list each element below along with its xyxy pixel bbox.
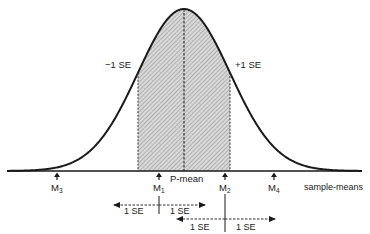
axis-label-sample-means: sample-means xyxy=(304,182,364,192)
marker-m2: M2 xyxy=(219,173,231,195)
interval-m1-left-label: 1 SE xyxy=(124,206,144,216)
plus-1se-label: +1 SE xyxy=(235,59,261,70)
svg-text:M1: M1 xyxy=(153,182,165,194)
minus-1se-label: −1 SE xyxy=(105,59,131,70)
sampling-distribution-diagram: −1 SE +1 SE P-mean sample-means M3 M1 M2… xyxy=(0,0,370,234)
marker-m1: M1 xyxy=(153,173,165,195)
svg-text:M4: M4 xyxy=(268,182,280,194)
svg-text:M2: M2 xyxy=(219,182,231,194)
marker-m3: M3 xyxy=(51,173,63,195)
interval-m1-right-label: 1 SE xyxy=(170,206,190,216)
p-mean-label: P-mean xyxy=(170,173,203,184)
svg-text:M3: M3 xyxy=(51,182,63,194)
interval-m2-left-label: 1 SE xyxy=(190,222,210,232)
interval-m1: 1 SE 1 SE xyxy=(114,196,205,216)
interval-m2: 1 SE 1 SE xyxy=(177,194,275,232)
interval-m2-right-label: 1 SE xyxy=(236,222,256,232)
marker-m4: M4 xyxy=(268,173,280,195)
